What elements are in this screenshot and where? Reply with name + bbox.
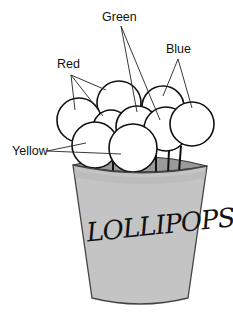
label-red: Red xyxy=(57,57,80,71)
diagram-canvas: LOLLIPOPS Green Blue Red Yellow xyxy=(0,0,233,318)
label-yellow: Yellow xyxy=(12,144,49,158)
lollipop-stick xyxy=(168,150,169,174)
lollipop-cup-diagram: LOLLIPOPS Green Blue Red Yellow xyxy=(0,0,233,318)
lollipop-yellow xyxy=(109,124,157,172)
pointer-line-red xyxy=(71,75,106,90)
lollipop-blue xyxy=(170,102,214,146)
label-blue: Blue xyxy=(166,42,191,56)
label-green: Green xyxy=(102,10,137,24)
lollipop-heads xyxy=(57,81,214,172)
